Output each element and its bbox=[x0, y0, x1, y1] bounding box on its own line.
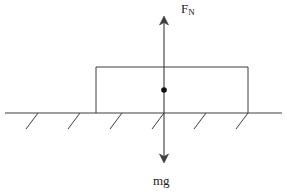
normal-force-subscript: N bbox=[188, 7, 195, 17]
normal-force-label: FN bbox=[181, 2, 195, 15]
hatch-mark bbox=[194, 113, 206, 129]
weight-label: mg bbox=[153, 174, 170, 187]
center-of-mass-dot bbox=[161, 87, 167, 93]
hatch-mark bbox=[152, 113, 164, 129]
hatch-mark bbox=[236, 113, 248, 129]
hatch-mark bbox=[26, 113, 38, 129]
hatch-mark bbox=[68, 113, 80, 129]
free-body-diagram-canvas: FN mg bbox=[0, 0, 287, 196]
ground-hatch-group bbox=[26, 113, 248, 129]
block-outline bbox=[96, 67, 248, 113]
normal-force-arrow bbox=[160, 16, 169, 90]
weight-arrow bbox=[160, 90, 169, 163]
hatch-mark bbox=[110, 113, 122, 129]
diagram-svg bbox=[0, 0, 287, 196]
